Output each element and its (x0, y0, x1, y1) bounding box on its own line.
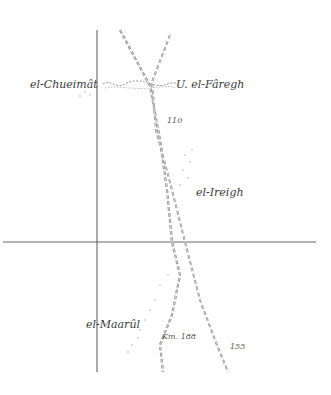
stipple-area (79, 91, 193, 353)
place-label-maarul: el-Maarûl (86, 318, 140, 331)
place-label-chueimat: el-Chueimât (30, 78, 98, 91)
place-label-ireigh: el-Ireigh (196, 186, 244, 199)
place-label-faregh: U. el-Fâregh (176, 78, 244, 91)
wadi-path (103, 81, 178, 86)
marker-110: 110 (167, 116, 182, 125)
route-map: el-Chueimât U. el-Fâregh el-Ireigh el-Ma… (0, 0, 331, 395)
wadi-path-2 (105, 87, 176, 89)
marker-km188: Km. 188 (162, 332, 196, 341)
marker-155: 155 (230, 342, 245, 351)
